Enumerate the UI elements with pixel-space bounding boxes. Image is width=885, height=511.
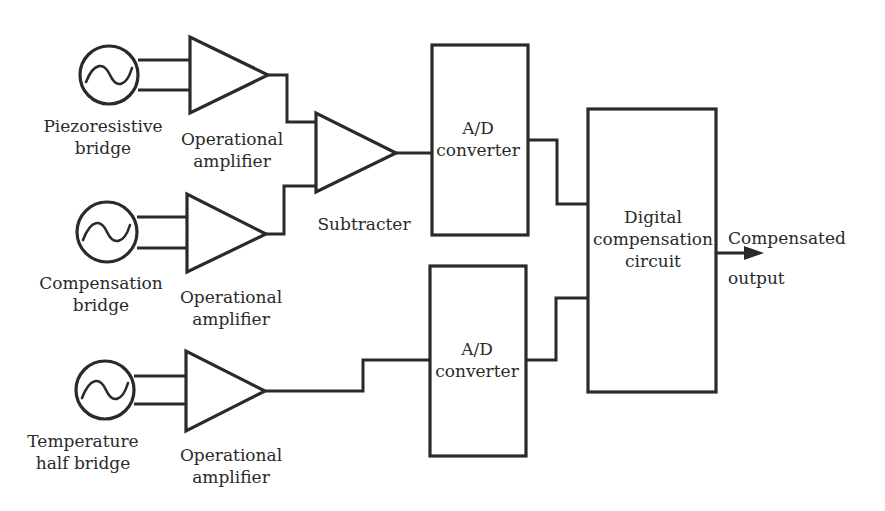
wire-source1-to-amp1 (138, 60, 190, 90)
compensated-output-label: Compensated output (728, 216, 846, 300)
ad-converter-2-label: A/D converter (435, 338, 519, 382)
temperature-half-bridge-label: Temperature half bridge (27, 430, 138, 474)
op-amp-1-label: Operational amplifier (181, 128, 283, 172)
ad-converter-1-label: A/D converter (436, 117, 520, 161)
wire-amp1-to-subtracter (268, 75, 316, 122)
wire-source3-to-amp3 (134, 376, 186, 404)
digital-compensation-circuit-label: Digital compensation circuit (593, 206, 713, 272)
wire-source2-to-amp2 (137, 217, 187, 248)
op-amp-3-icon (186, 351, 265, 431)
subtracter-icon (316, 113, 396, 192)
compensation-bridge-label: Compensation bridge (39, 272, 163, 316)
wire-amp2-to-subtracter (266, 186, 316, 234)
temperature-half-bridge-source-icon (76, 361, 134, 419)
piezoresistive-bridge-label: Piezoresistive bridge (43, 115, 162, 159)
compensation-bridge-source-icon (77, 202, 137, 262)
wire-ad1-to-dcc (528, 140, 588, 204)
subtracter-label: Subtracter (317, 213, 410, 235)
op-amp-2-icon (187, 194, 266, 272)
op-amp-1-icon (190, 37, 268, 113)
op-amp-3-label: Operational amplifier (180, 444, 282, 488)
wire-ad2-to-dcc (526, 298, 588, 360)
op-amp-2-label: Operational amplifier (180, 286, 282, 330)
wire-amp3-to-ad2 (265, 360, 430, 391)
piezoresistive-bridge-source-icon (80, 46, 138, 104)
